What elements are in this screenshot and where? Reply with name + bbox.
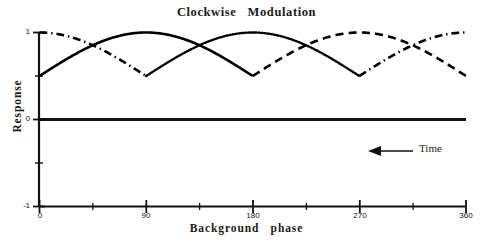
time-annotation-label: Time bbox=[419, 142, 442, 154]
time-annotation: Time bbox=[366, 142, 442, 154]
data-curves-group bbox=[40, 33, 467, 77]
x-axis-title: Background phase bbox=[0, 222, 493, 234]
curve-lobe-dashed bbox=[253, 33, 466, 77]
y-tick-label-minus1: -1 bbox=[8, 201, 30, 210]
x-tick-label-180: 180 bbox=[233, 211, 273, 220]
x-tick-label-270: 270 bbox=[340, 211, 380, 220]
curve-lobe-solid bbox=[40, 33, 253, 77]
curve-lobe-dashdot-a bbox=[40, 33, 147, 77]
x-tick-label-90: 90 bbox=[126, 211, 166, 220]
x-tick-label-0: 0 bbox=[20, 211, 60, 220]
x-tick-label-360: 360 bbox=[446, 211, 486, 220]
curve-lobe-dashdot-b bbox=[359, 33, 466, 77]
curve-lobe-dotted bbox=[146, 33, 359, 77]
chart-figure: Clockwise Modulation bbox=[0, 0, 493, 246]
plot-canvas bbox=[0, 0, 493, 246]
y-axis-title: Response bbox=[11, 61, 23, 151]
y-tick-label-1: 1 bbox=[8, 27, 30, 36]
